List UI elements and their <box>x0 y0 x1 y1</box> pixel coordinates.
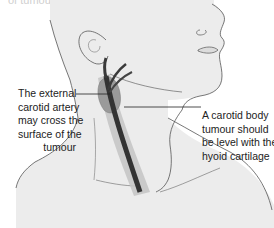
carotid-body-tumour-diagram: of tumour. <box>0 0 274 228</box>
label-line: tumour <box>18 141 76 155</box>
label-line: carotid artery <box>18 101 76 115</box>
label-line: The external <box>18 87 76 101</box>
label-carotid-body-tumour-level: A carotid body tumour should be level wi… <box>202 109 274 163</box>
label-line: may cross the <box>18 114 76 128</box>
label-external-carotid-artery: The external carotid artery may cross th… <box>18 87 76 155</box>
label-line: hyoid cartilage <box>202 150 274 164</box>
label-line: surface of the <box>18 128 76 142</box>
label-line: be level with the <box>202 136 274 150</box>
label-line: tumour should <box>202 123 274 137</box>
internal-carotid-artery <box>105 58 107 78</box>
label-line: A carotid body <box>202 109 274 123</box>
